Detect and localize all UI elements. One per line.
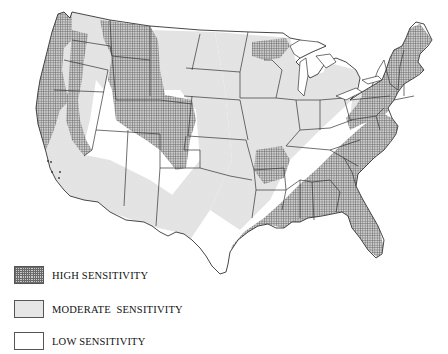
moderate-sensitivity-swatch-icon bbox=[14, 300, 44, 318]
legend-label: LOW SENSITIVITY bbox=[52, 336, 146, 347]
legend-item-high: HIGH SENSITIVITY bbox=[14, 266, 148, 284]
legend-item-moderate: MODERATE SENSITIVITY bbox=[14, 300, 183, 318]
legend-item-low: LOW SENSITIVITY bbox=[14, 332, 146, 350]
legend-label: HIGH SENSITIVITY bbox=[52, 270, 148, 281]
legend-label: MODERATE SENSITIVITY bbox=[52, 304, 183, 315]
high-sensitivity-swatch-icon bbox=[14, 266, 44, 284]
low-sensitivity-swatch-icon bbox=[14, 332, 44, 350]
